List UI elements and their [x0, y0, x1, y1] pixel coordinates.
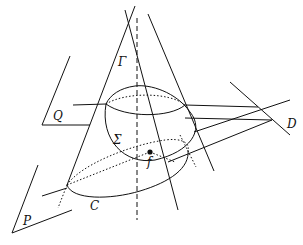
dotted-line-4: [67, 152, 150, 185]
line-to-d-extra: [194, 100, 290, 132]
cone-generator-front: [125, 10, 178, 210]
sphere-tangent-circle-front: [106, 104, 185, 115]
label-gamma: Γ: [118, 56, 126, 68]
plane-q-top-edge: [73, 104, 106, 105]
focus-point-f: [147, 149, 152, 154]
dotted-line-2: [180, 135, 196, 167]
label-f: f: [147, 156, 151, 168]
plane-q-outline: [42, 56, 90, 125]
label-p: P: [23, 215, 31, 227]
label-q: Q: [53, 110, 63, 122]
cone-generator-left: [67, 6, 135, 185]
line-to-d-middle: [185, 118, 272, 120]
label-d: D: [287, 118, 297, 130]
conic-ellipse-front: [67, 150, 188, 197]
line-to-d-upper: [185, 105, 258, 107]
plane-p-edge: [42, 188, 67, 196]
dandelin-sphere-diagram: Γ Σ Q D f P C: [0, 0, 303, 245]
plane-p-outline: [12, 165, 72, 233]
label-c: C: [90, 200, 99, 212]
dotted-line-1: [58, 185, 67, 208]
directrix-line-d: [230, 82, 290, 135]
line-to-d-lower: [168, 120, 272, 162]
diagram-svg: [0, 0, 303, 245]
sphere-outline: [105, 86, 196, 161]
label-sigma: Σ: [113, 134, 121, 146]
